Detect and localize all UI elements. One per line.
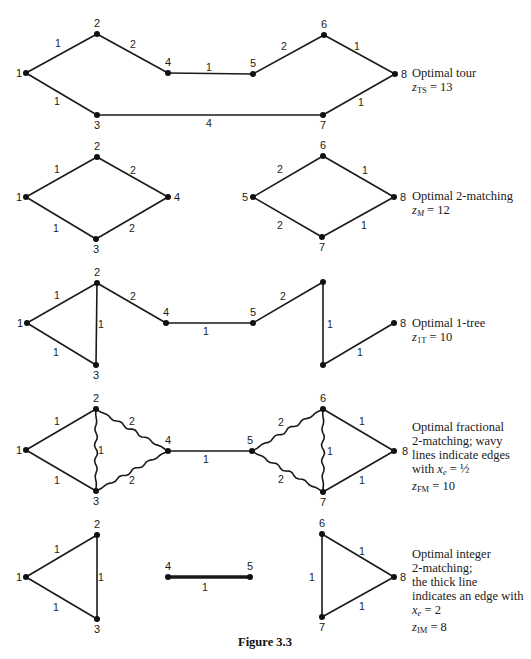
edge-weight-label: 1 bbox=[53, 222, 59, 234]
node-label: 3 bbox=[93, 495, 99, 507]
objective-value: zFM = 10 bbox=[412, 479, 510, 496]
node-label: 4 bbox=[163, 306, 169, 318]
edge-integer-two-matching-1-2 bbox=[26, 535, 97, 577]
node-fractional-two-matching-8 bbox=[391, 448, 397, 454]
edge-fractional-two-matching-5-6 bbox=[252, 409, 323, 451]
node-two-matching-1 bbox=[23, 194, 29, 200]
node-tour-6 bbox=[321, 32, 327, 38]
objective-value: zTS = 13 bbox=[412, 80, 476, 97]
edge-one-tree-5-6 bbox=[253, 282, 323, 323]
xe-value-line: xe = 2 bbox=[412, 603, 523, 620]
edge-weight-label: 1 bbox=[358, 96, 364, 108]
node-tour-4 bbox=[165, 70, 171, 76]
caption-integer-two-matching: Optimal integer2-matching;the thick line… bbox=[412, 547, 523, 637]
caption-one-tree: Optimal 1-treez1T = 10 bbox=[412, 316, 485, 347]
node-label: 5 bbox=[250, 57, 256, 69]
xe-value-line: with xe = ½ bbox=[412, 462, 510, 479]
node-label: 8 bbox=[401, 68, 407, 80]
caption-line: 2-matching; bbox=[412, 561, 523, 575]
edge-weight-label: 1 bbox=[98, 571, 104, 583]
edge-weight-label: 1 bbox=[357, 346, 363, 358]
node-label: 2 bbox=[94, 518, 100, 530]
edge-weight-label: 1 bbox=[203, 325, 209, 337]
objective-value: z1T = 10 bbox=[412, 330, 485, 347]
edge-weight-label: 2 bbox=[129, 222, 135, 234]
caption-line: Optimal integer bbox=[412, 547, 523, 561]
node-one-tree-8 bbox=[391, 320, 397, 326]
edge-two-matching-1-2 bbox=[26, 157, 97, 197]
edge-weight-label: 1 bbox=[359, 545, 365, 557]
edge-one-tree-7-8 bbox=[323, 323, 394, 365]
edge-weight-label: 2 bbox=[277, 219, 283, 231]
edge-weight-label: 1 bbox=[53, 601, 59, 613]
node-fractional-two-matching-6 bbox=[320, 406, 326, 412]
edge-one-tree-1-3 bbox=[27, 323, 96, 365]
node-tour-8 bbox=[392, 71, 398, 77]
node-label: 5 bbox=[242, 191, 248, 203]
edge-fractional-two-matching-1-2 bbox=[26, 409, 96, 450]
edge-weight-label: 1 bbox=[203, 453, 209, 465]
edge-weight-label: 1 bbox=[202, 581, 208, 593]
edge-two-matching-7-8 bbox=[322, 197, 394, 237]
edge-weight-label: 1 bbox=[54, 289, 60, 301]
edge-one-tree-2-3 bbox=[96, 283, 97, 365]
node-fractional-two-matching-3 bbox=[93, 488, 99, 494]
edge-weight-label: 1 bbox=[53, 346, 59, 358]
node-fractional-two-matching-5 bbox=[249, 448, 255, 454]
edge-weight-label: 1 bbox=[354, 40, 360, 52]
node-fractional-two-matching-2 bbox=[93, 406, 99, 412]
edge-tour-4-5 bbox=[168, 73, 253, 74]
node-label: 3 bbox=[93, 243, 99, 255]
objective-value: zIM = 8 bbox=[412, 620, 523, 637]
caption-line: 2-matching; wavy bbox=[412, 434, 510, 448]
edge-tour-1-2 bbox=[26, 34, 97, 73]
edge-weight-label: 1 bbox=[359, 415, 365, 427]
node-label: 2 bbox=[94, 17, 100, 29]
node-two-matching-6 bbox=[320, 153, 326, 159]
edge-weight-label: 2 bbox=[281, 40, 287, 52]
edge-weight-label: 1 bbox=[54, 163, 60, 175]
edge-one-tree-1-2 bbox=[27, 283, 97, 323]
node-two-matching-5 bbox=[250, 194, 256, 200]
node-integer-two-matching-1 bbox=[23, 574, 29, 580]
node-tour-5 bbox=[250, 71, 256, 77]
node-one-tree-1 bbox=[24, 320, 30, 326]
edge-weight-label: 1 bbox=[362, 164, 368, 176]
node-integer-two-matching-2 bbox=[94, 532, 100, 538]
edge-weight-label: 1 bbox=[327, 445, 333, 457]
node-fractional-two-matching-1 bbox=[23, 447, 29, 453]
node-label: 7 bbox=[320, 496, 326, 508]
node-label: 1 bbox=[17, 317, 23, 329]
node-one-tree-4 bbox=[163, 320, 169, 326]
node-one-tree-7 bbox=[320, 362, 326, 368]
node-label: 1 bbox=[16, 191, 22, 203]
node-one-tree-3 bbox=[93, 362, 99, 368]
node-label: 6 bbox=[321, 18, 327, 30]
node-label: 8 bbox=[400, 191, 406, 203]
edge-weight-label: 1 bbox=[206, 61, 212, 73]
node-label: 1 bbox=[16, 444, 22, 456]
caption-line: the thick line bbox=[412, 575, 523, 589]
edge-weight-label: 1 bbox=[54, 95, 60, 107]
node-one-tree-2 bbox=[94, 280, 100, 286]
edge-weight-label: 2 bbox=[130, 290, 136, 302]
node-two-matching-8 bbox=[391, 194, 397, 200]
edge-weight-label: 1 bbox=[327, 318, 333, 330]
edge-two-matching-5-6 bbox=[253, 156, 323, 197]
node-label: 5 bbox=[247, 560, 253, 572]
edge-weight-label: 1 bbox=[54, 543, 60, 555]
caption-line: Optimal 2-matching bbox=[412, 189, 513, 203]
node-label: 8 bbox=[402, 445, 408, 457]
node-integer-two-matching-3 bbox=[94, 616, 100, 622]
node-one-tree-6 bbox=[320, 279, 326, 285]
caption-line: lines indicate edges bbox=[412, 448, 510, 462]
edge-two-matching-5-7 bbox=[253, 197, 322, 237]
node-label: 2 bbox=[94, 140, 100, 152]
node-label: 4 bbox=[165, 56, 171, 68]
edge-fractional-two-matching-1-3 bbox=[26, 450, 96, 491]
edge-weight-label: 1 bbox=[55, 37, 61, 49]
edge-tour-5-6 bbox=[253, 35, 324, 74]
edge-one-tree-2-4 bbox=[97, 283, 166, 323]
edge-weight-label: 2 bbox=[278, 473, 284, 485]
node-two-matching-2 bbox=[94, 154, 100, 160]
